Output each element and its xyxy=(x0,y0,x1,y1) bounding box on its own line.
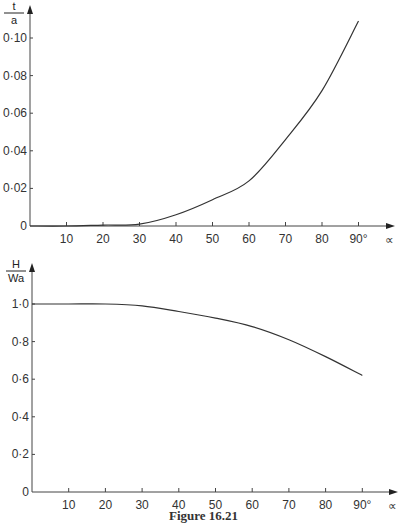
figure-charts: 102030405060708090°∝00·020·040·060·080·1… xyxy=(0,0,407,524)
x-tick-label: 60 xyxy=(242,232,256,246)
y-tick-label: 1·0 xyxy=(12,297,30,311)
y-label-numerator: H xyxy=(12,258,20,270)
y-tick-label: 0 xyxy=(20,219,27,233)
x-axis-arrow-icon xyxy=(389,489,398,495)
x-tick-label: 30 xyxy=(133,232,147,246)
y-tick-label: 0 xyxy=(22,485,29,499)
data-curve xyxy=(30,21,359,226)
y-tick-label: 0·6 xyxy=(12,372,30,386)
x-tick-label: 20 xyxy=(96,232,110,246)
y-tick-label: 0·10 xyxy=(3,31,27,45)
figure-caption: Figure 16.21 xyxy=(0,508,407,524)
y-tick-label: 0·08 xyxy=(3,69,27,83)
x-tick-label: 70 xyxy=(279,232,293,246)
y-tick-label: 0·8 xyxy=(12,335,30,349)
y-tick-label: 0·2 xyxy=(12,447,30,461)
y-tick-label: 0·4 xyxy=(12,410,30,424)
x-tick-label: 50 xyxy=(206,232,220,246)
x-tick-label: 10 xyxy=(60,232,74,246)
x-axis-arrow-icon xyxy=(386,223,395,229)
y-tick-label: 0·04 xyxy=(3,144,27,158)
top-chart-t-over-a: 102030405060708090°∝00·020·040·060·080·1… xyxy=(3,0,395,247)
x-tick-label: 80 xyxy=(315,232,329,246)
data-curve xyxy=(32,304,362,376)
x-tick-label: 90° xyxy=(349,232,367,246)
x-axis-label-alpha: ∝ xyxy=(385,233,394,247)
y-tick-label: 0·02 xyxy=(3,181,27,195)
bottom-chart-h-over-wa: 102030405060708090°∝00·20·40·60·81·0HWa xyxy=(6,258,398,513)
x-tick-label: 40 xyxy=(169,232,183,246)
y-axis-arrow-icon xyxy=(27,5,33,14)
y-label-numerator: t xyxy=(12,0,15,12)
y-tick-label: 0·06 xyxy=(3,106,27,120)
y-axis-arrow-icon xyxy=(29,263,35,272)
y-label-denominator: Wa xyxy=(8,272,25,284)
y-label-denominator: a xyxy=(11,14,18,26)
